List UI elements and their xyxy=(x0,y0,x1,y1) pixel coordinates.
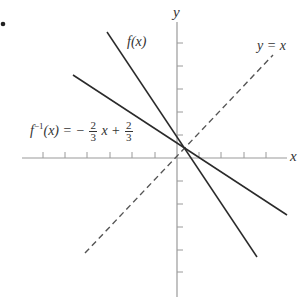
frac-den: 3 xyxy=(89,132,97,143)
f-inverse-mid: (x) = − xyxy=(43,123,84,138)
y-axis-label: y xyxy=(173,4,180,21)
f-inverse-x: x + xyxy=(101,123,120,138)
fraction-two-thirds-a: 23 xyxy=(89,120,97,143)
f-inverse-line xyxy=(73,75,287,215)
fraction-two-thirds-b: 23 xyxy=(125,120,133,143)
f-inverse-label: f−1(x) = − 23 x + 23 xyxy=(30,120,134,143)
f-label: f(x) xyxy=(127,34,146,50)
bullet-dot xyxy=(1,22,6,27)
frac-den: 3 xyxy=(125,132,133,143)
identity-line xyxy=(85,55,273,253)
identity-label: y = x xyxy=(257,38,286,54)
x-axis-label: x xyxy=(290,148,297,165)
x-axis-ticks xyxy=(43,152,266,158)
